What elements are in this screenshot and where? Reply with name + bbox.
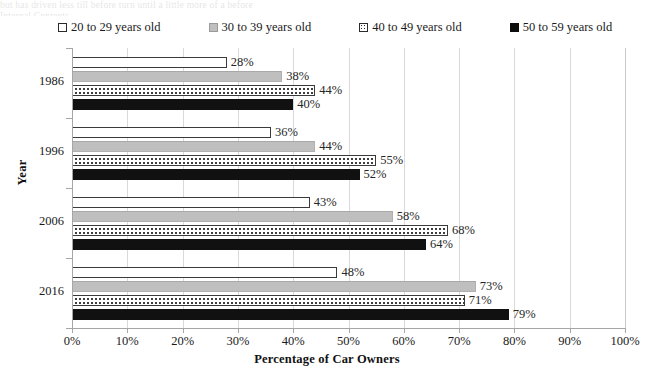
bar-row: 52% xyxy=(72,169,625,180)
x-tick-mark xyxy=(404,328,405,333)
legend-item-label: 40 to 49 years old xyxy=(372,20,462,35)
legend-item-label: 30 to 39 years old xyxy=(222,20,312,35)
bar-row: 73% xyxy=(72,281,625,292)
bar-2006-white[interactable] xyxy=(72,197,310,208)
bar-value-label: 52% xyxy=(364,167,387,182)
bar-1986-white[interactable] xyxy=(72,57,227,68)
scan-bleed-through-top: but has driven less till before turn unt… xyxy=(0,0,654,16)
bar-1986-gray[interactable] xyxy=(72,71,282,82)
bar-group-1996: 36%44%55%52% xyxy=(72,127,625,183)
x-tick-label-10: 10% xyxy=(116,334,139,349)
bar-row: 43% xyxy=(72,197,625,208)
bar-row: 44% xyxy=(72,85,625,96)
bar-row: 44% xyxy=(72,141,625,152)
x-tick-mark xyxy=(570,328,571,333)
x-tick-label-60: 60% xyxy=(392,334,415,349)
bar-value-label: 38% xyxy=(286,69,309,84)
x-tick-mark xyxy=(349,328,350,333)
bar-row: 58% xyxy=(72,211,625,222)
x-axis-title: Percentage of Car Owners xyxy=(0,352,654,367)
bar-value-label: 64% xyxy=(430,237,453,252)
x-tick-mark xyxy=(72,328,73,333)
y-tick-label-2016: 2016 xyxy=(28,284,64,299)
chart-plot-area: 28%38%44%40%36%44%55%52%43%58%68%64%48%7… xyxy=(72,48,625,328)
bar-group-2006: 43%58%68%64% xyxy=(72,197,625,253)
x-tick-mark xyxy=(238,328,239,333)
legend-swatch-gray-icon xyxy=(209,23,218,32)
bar-2016-black[interactable] xyxy=(72,309,509,320)
x-tick-label-50: 50% xyxy=(337,334,360,349)
chart-bar-groups: 28%38%44%40%36%44%55%52%43%58%68%64%48%7… xyxy=(72,48,625,328)
bar-2016-white[interactable] xyxy=(72,267,337,278)
bar-value-label: 55% xyxy=(380,153,403,168)
legend-item-1[interactable]: 20 to 29 years old xyxy=(58,20,161,35)
bar-2006-black[interactable] xyxy=(72,239,426,250)
bar-group-2016: 48%73%71%79% xyxy=(72,267,625,323)
x-tick-label-40: 40% xyxy=(282,334,305,349)
bar-value-label: 44% xyxy=(319,139,342,154)
legend-swatch-black-icon xyxy=(510,23,519,32)
bar-1986-dotted[interactable] xyxy=(72,85,315,96)
legend-item-label: 50 to 59 years old xyxy=(523,20,613,35)
bar-value-label: 40% xyxy=(297,97,320,112)
x-tick-mark xyxy=(625,328,626,333)
bar-value-label: 44% xyxy=(319,83,342,98)
bar-row: 64% xyxy=(72,239,625,250)
bar-row: 79% xyxy=(72,309,625,320)
bar-value-label: 79% xyxy=(513,307,536,322)
x-tick-label-0: 0% xyxy=(64,334,81,349)
bar-value-label: 73% xyxy=(480,279,503,294)
bar-row: 55% xyxy=(72,155,625,166)
legend-item-3[interactable]: 40 to 49 years old xyxy=(359,20,462,35)
legend-item-label: 20 to 29 years old xyxy=(71,20,161,35)
bar-row: 48% xyxy=(72,267,625,278)
bar-row: 38% xyxy=(72,71,625,82)
x-tick-label-20: 20% xyxy=(171,334,194,349)
bar-1996-white[interactable] xyxy=(72,127,271,138)
bar-value-label: 36% xyxy=(275,125,298,140)
x-tick-label-70: 70% xyxy=(448,334,471,349)
chart-legend: 20 to 29 years old30 to 39 years old40 t… xyxy=(58,19,618,36)
bar-1986-black[interactable] xyxy=(72,99,293,110)
bleed-line-1: but has driven less till before turn unt… xyxy=(0,0,253,10)
bar-row: 71% xyxy=(72,295,625,306)
bar-row: 36% xyxy=(72,127,625,138)
x-tick-mark xyxy=(459,328,460,333)
bleed-line-2: Internal Contents xyxy=(0,11,654,16)
bar-row: 28% xyxy=(72,57,625,68)
x-tick-mark xyxy=(127,328,128,333)
legend-item-2[interactable]: 30 to 39 years old xyxy=(209,20,312,35)
legend-swatch-white-icon xyxy=(58,23,67,32)
y-axis-line xyxy=(72,48,73,328)
bar-value-label: 43% xyxy=(314,195,337,210)
bar-2016-dotted[interactable] xyxy=(72,295,465,306)
bar-1996-dotted[interactable] xyxy=(72,155,376,166)
bar-value-label: 48% xyxy=(341,265,364,280)
legend-item-4[interactable]: 50 to 59 years old xyxy=(510,20,613,35)
bar-row: 68% xyxy=(72,225,625,236)
x-tick-label-80: 80% xyxy=(503,334,526,349)
x-tick-label-30: 30% xyxy=(226,334,249,349)
y-tick-label-1986: 1986 xyxy=(28,74,64,89)
x-tick-label-100: 100% xyxy=(610,334,639,349)
y-tick-label-2006: 2006 xyxy=(28,214,64,229)
bar-value-label: 28% xyxy=(231,55,254,70)
bar-1996-gray[interactable] xyxy=(72,141,315,152)
gridline-100 xyxy=(625,48,626,328)
bar-2016-gray[interactable] xyxy=(72,281,476,292)
x-tick-label-90: 90% xyxy=(558,334,581,349)
x-tick-mark xyxy=(293,328,294,333)
x-tick-mark xyxy=(514,328,515,333)
bar-value-label: 71% xyxy=(469,293,492,308)
bar-2006-dotted[interactable] xyxy=(72,225,448,236)
bar-group-1986: 28%38%44%40% xyxy=(72,57,625,113)
bar-1996-black[interactable] xyxy=(72,169,360,180)
bar-row: 40% xyxy=(72,99,625,110)
y-tick-label-1996: 1996 xyxy=(28,144,64,159)
legend-swatch-dotted-icon xyxy=(359,23,368,32)
bar-2006-gray[interactable] xyxy=(72,211,393,222)
y-axis-title: Year xyxy=(15,143,30,203)
bar-value-label: 58% xyxy=(397,209,420,224)
bar-value-label: 68% xyxy=(452,223,475,238)
x-tick-mark xyxy=(183,328,184,333)
